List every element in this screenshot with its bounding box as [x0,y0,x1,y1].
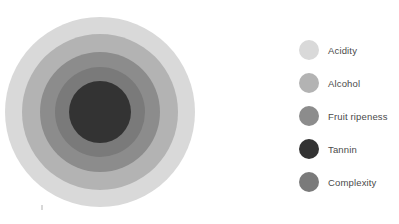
nested-circle-chart-figure: Acidity Alcohol Fruit ripeness Tannin Co… [0,0,399,224]
legend-item-acidity[interactable]: Acidity [299,38,399,62]
legend-label-tannin: Tannin [328,144,357,155]
legend-label-acidity: Acidity [328,45,357,56]
complexity-swatch-icon [299,172,319,192]
fruit-ripeness-swatch-icon [299,106,319,126]
legend-label-alcohol: Alcohol [328,78,360,89]
legend-item-fruit-ripeness[interactable]: Fruit ripeness [299,104,399,128]
legend-item-tannin[interactable]: Tannin [299,137,399,161]
tannin-swatch-icon [299,139,319,159]
baseline-tick-mark [41,205,43,210]
chart-legend: Acidity Alcohol Fruit ripeness Tannin Co… [299,38,399,203]
concentric-circles-plot [0,0,220,224]
legend-label-fruit-ripeness: Fruit ripeness [328,111,388,122]
tannin-ring [69,81,131,143]
acidity-swatch-icon [299,40,319,60]
alcohol-swatch-icon [299,73,319,93]
legend-item-complexity[interactable]: Complexity [299,170,399,194]
legend-item-alcohol[interactable]: Alcohol [299,71,399,95]
legend-label-complexity: Complexity [328,177,377,188]
